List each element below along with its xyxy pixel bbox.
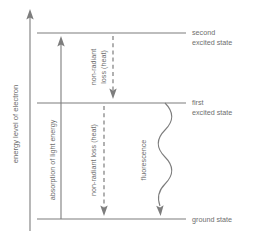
energy-axis: energy level of electron (11, 9, 34, 231)
process-non-radiant-loss-upper: non-radiant loss (heat) (89, 36, 117, 99)
level-second-excited-state: second excited state (37, 28, 232, 47)
arrow-down-icon (156, 205, 163, 216)
fluorescence-wave-shaft (158, 103, 172, 206)
absorption-label: absorption of light energy (48, 119, 57, 200)
non-radiant-loss-upper-label-line1: non-radiant (89, 49, 98, 85)
level-first-excited-state: first excited state (37, 98, 232, 117)
energy-level-diagram: energy level of electron second excited … (0, 0, 254, 242)
energy-axis-label: energy level of electron (11, 85, 20, 164)
process-absorption: absorption of light energy (48, 36, 65, 219)
level-ground-state: ground state (37, 215, 232, 224)
non-radiant-loss-lower-label: non-radiant loss (heat) (89, 124, 98, 196)
level-label-line1: ground state (192, 215, 232, 224)
process-fluorescence: fluorescence (139, 103, 172, 216)
jablonski-diagram-canvas: energy level of electron second excited … (0, 0, 254, 242)
fluorescence-label: fluorescence (139, 140, 148, 181)
level-label-line2: excited state (192, 38, 232, 47)
level-label-line1: second (192, 28, 215, 37)
non-radiant-loss-upper-label-line2: loss (heat) (99, 50, 108, 84)
arrow-down-icon (100, 206, 107, 217)
arrow-down-icon (109, 89, 116, 100)
process-non-radiant-loss-lower: non-radiant loss (heat) (89, 106, 108, 216)
level-label-line1: first (192, 98, 204, 107)
level-label-line2: excited state (192, 108, 232, 117)
